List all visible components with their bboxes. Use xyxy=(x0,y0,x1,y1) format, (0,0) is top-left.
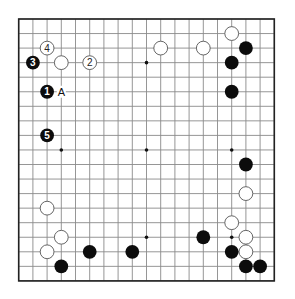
white-stone xyxy=(225,27,239,41)
stone-circle xyxy=(239,259,253,273)
stone-circle xyxy=(196,230,210,244)
move-number: 3 xyxy=(30,57,36,68)
star-point xyxy=(145,148,149,152)
move-number: 5 xyxy=(44,130,50,141)
stone-circle xyxy=(54,259,68,273)
white-stone xyxy=(196,41,210,55)
black-stone: 1 xyxy=(40,85,54,99)
black-stone xyxy=(196,230,210,244)
go-board: 43215 A xyxy=(0,0,295,299)
black-stone xyxy=(239,158,253,172)
white-stone xyxy=(154,41,168,55)
star-point xyxy=(230,148,234,152)
black-stone xyxy=(83,245,97,259)
stone-circle xyxy=(40,201,54,215)
black-stone xyxy=(225,245,239,259)
white-stone xyxy=(239,187,253,201)
stone-circle xyxy=(225,245,239,259)
stone-circle xyxy=(125,245,139,259)
white-stone xyxy=(40,245,54,259)
white-stone xyxy=(239,230,253,244)
black-stone xyxy=(225,85,239,99)
stone-circle xyxy=(253,259,267,273)
black-stone xyxy=(253,259,267,273)
black-stone xyxy=(54,259,68,273)
star-point xyxy=(145,235,149,239)
move-number: 1 xyxy=(44,86,50,97)
white-stone xyxy=(225,216,239,230)
white-stone xyxy=(54,56,68,70)
black-stone: 3 xyxy=(26,56,40,70)
move-number: 2 xyxy=(87,57,93,68)
white-stone: 2 xyxy=(83,56,97,70)
move-number: 4 xyxy=(44,43,50,54)
stone-circle xyxy=(54,230,68,244)
point-label: A xyxy=(58,86,66,98)
stone-circle xyxy=(239,245,253,259)
black-stone: 5 xyxy=(40,129,54,143)
star-point xyxy=(230,235,234,239)
black-stone xyxy=(239,259,253,273)
stone-circle xyxy=(239,41,253,55)
stone-circle xyxy=(40,245,54,259)
stone-circle xyxy=(239,187,253,201)
stone-circle xyxy=(54,56,68,70)
stone-circle xyxy=(225,27,239,41)
stone-circle xyxy=(239,158,253,172)
white-stone xyxy=(54,230,68,244)
stone-circle xyxy=(196,41,210,55)
black-stone xyxy=(225,56,239,70)
stone-circle xyxy=(225,85,239,99)
stone-circle xyxy=(83,245,97,259)
stone-circle xyxy=(225,56,239,70)
white-stone xyxy=(40,201,54,215)
white-stone: 4 xyxy=(40,41,54,55)
stone-circle xyxy=(239,230,253,244)
labels-layer: A xyxy=(57,86,66,98)
stone-circle xyxy=(154,41,168,55)
black-stone xyxy=(125,245,139,259)
stone-circle xyxy=(225,216,239,230)
star-point xyxy=(60,148,64,152)
white-stone xyxy=(239,245,253,259)
black-stone xyxy=(239,41,253,55)
star-point xyxy=(145,61,149,65)
